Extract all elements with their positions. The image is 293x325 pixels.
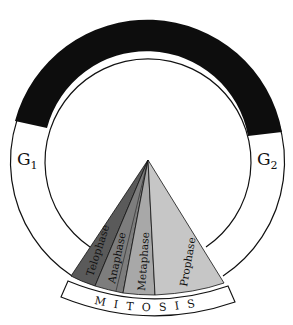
cell-cycle-diagram: G1 G2 Telophase Anaphase Metaphase Proph…	[0, 0, 293, 325]
g1-label: G1	[17, 149, 38, 172]
g2-label: G2	[257, 149, 278, 172]
